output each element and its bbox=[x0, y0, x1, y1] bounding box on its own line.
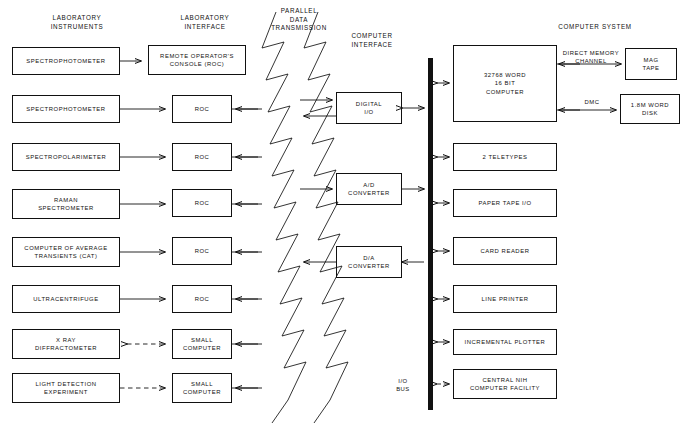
io-bus-label: I/O BUS bbox=[386, 377, 420, 394]
box-computer-of-average-transients[interactable]: COMPUTER OF AVERAGE TRANSIENTS (CAT) bbox=[12, 237, 120, 267]
label-dmc: DMC bbox=[575, 98, 609, 106]
links-transmission-to-computer-interface bbox=[300, 100, 336, 262]
box-light-detection-experiment[interactable]: LIGHT DETECTION EXPERIMENT bbox=[12, 373, 120, 403]
box-roc-5[interactable]: ROC bbox=[172, 237, 232, 265]
box-x-ray-diffractometer[interactable]: X RAY DIFFRACTOMETER bbox=[12, 329, 120, 359]
box-incremental-plotter[interactable]: INCREMENTAL PLOTTER bbox=[453, 329, 557, 355]
box-ad-converter[interactable]: A/D CONVERTER bbox=[336, 173, 402, 205]
box-roc-4[interactable]: ROC bbox=[172, 189, 232, 217]
lightning-column-left bbox=[262, 12, 306, 423]
box-line-printer[interactable]: LINE PRINTER bbox=[453, 285, 557, 313]
box-roc-3[interactable]: ROC bbox=[172, 143, 232, 171]
links-interface-to-bus bbox=[402, 108, 424, 262]
box-spectrophotometer-1[interactable]: SPECTROPHOTOMETER bbox=[12, 47, 120, 75]
lightning-column-right bbox=[304, 12, 348, 423]
box-small-computer-2[interactable]: SMALL COMPUTER bbox=[172, 373, 232, 403]
box-roc-6[interactable]: ROC bbox=[172, 285, 232, 313]
box-remote-operators-console[interactable]: REMOTE OPERATOR'S CONSOLE (ROC) bbox=[148, 45, 246, 75]
column-header-lab-instruments: LABORATORY INSTRUMENTS bbox=[18, 14, 136, 31]
box-teletypes[interactable]: 2 TELETYPES bbox=[453, 143, 557, 171]
box-spectropolarimeter[interactable]: SPECTROPOLARIMETER bbox=[12, 143, 120, 171]
links-bus-to-devices bbox=[437, 83, 449, 342]
column-header-computer-system: COMPUTER SYSTEM bbox=[540, 23, 650, 32]
box-ultracentrifuge[interactable]: ULTRACENTRIFUGE bbox=[12, 285, 120, 313]
column-header-computer-interface: COMPUTER INTERFACE bbox=[330, 32, 414, 49]
box-word-disk[interactable]: 1.8M WORD DISK bbox=[620, 94, 680, 124]
links-instrument-to-interface bbox=[120, 61, 165, 299]
box-main-computer[interactable]: 32768 WORD 16 BIT COMPUTER bbox=[453, 45, 557, 122]
box-spectrophotometer-2[interactable]: SPECTROPHOTOMETER bbox=[12, 95, 120, 123]
column-header-lab-interface: LABORATORY INTERFACE bbox=[150, 14, 260, 31]
box-mag-tape[interactable]: MAG TAPE bbox=[625, 48, 677, 80]
box-paper-tape-io[interactable]: PAPER TAPE I/O bbox=[453, 189, 557, 217]
box-small-computer-1[interactable]: SMALL COMPUTER bbox=[172, 329, 232, 359]
label-direct-memory-channel: DIRECT MEMORY CHANNEL bbox=[556, 49, 626, 66]
box-raman-spectrometer[interactable]: RAMAN SPECTROMETER bbox=[12, 189, 120, 219]
io-bus-bar[interactable] bbox=[428, 58, 433, 410]
box-digital-io[interactable]: DIGITAL I/O bbox=[336, 92, 402, 124]
box-da-converter[interactable]: D/A CONVERTER bbox=[336, 246, 402, 278]
column-header-parallel-data-transmission: PARALLEL DATA TRANSMISSION bbox=[258, 7, 340, 33]
links-instrument-to-small-computer bbox=[120, 344, 165, 388]
block-diagram-canvas: LABORATORY INSTRUMENTS LABORATORY INTERF… bbox=[0, 0, 686, 423]
box-card-reader[interactable]: CARD READER bbox=[453, 237, 557, 265]
links-interface-to-transmission bbox=[232, 109, 262, 388]
box-roc-2[interactable]: ROC bbox=[172, 95, 232, 123]
box-central-nih-computer-facility[interactable]: CENTRAL NIH COMPUTER FACILITY bbox=[453, 369, 557, 399]
